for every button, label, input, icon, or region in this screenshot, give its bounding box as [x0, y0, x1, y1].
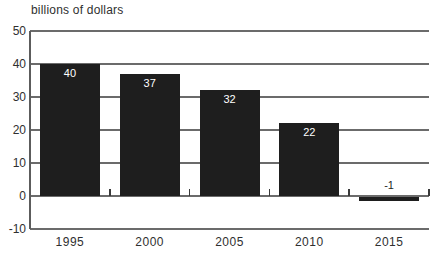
y-tick-label: 50 — [0, 24, 26, 38]
x-tick-label: 2010 — [269, 235, 349, 249]
category-tick — [428, 189, 430, 196]
gridline-50 — [30, 30, 429, 32]
category-tick — [109, 189, 111, 196]
x-tick-label: 2000 — [110, 235, 190, 249]
bar-value-label: 32 — [200, 93, 260, 106]
y-tick-label: 30 — [0, 90, 26, 104]
bar-value-label: -1 — [359, 179, 419, 192]
y-tick-label: 20 — [0, 123, 26, 137]
y-tick-label: 40 — [0, 57, 26, 71]
bar-value-label: 37 — [120, 77, 180, 90]
y-axis-line — [29, 31, 31, 229]
category-tick — [348, 189, 350, 196]
y-tick-label: 10 — [0, 156, 26, 170]
x-tick-label: 1995 — [30, 235, 110, 249]
y-tick-label: 0 — [0, 189, 26, 203]
bar-1995 — [40, 64, 100, 196]
gridline--10 — [30, 228, 429, 230]
bar-chart-figure: billions of dollars 50403020100-10401995… — [0, 0, 441, 266]
x-tick-label: 2005 — [190, 235, 270, 249]
bar-value-label: 40 — [40, 67, 100, 80]
bar-value-label: 22 — [279, 126, 339, 139]
category-tick — [189, 189, 191, 196]
bar-2000 — [120, 74, 180, 196]
x-tick-label: 2015 — [349, 235, 429, 249]
bar-2015 — [359, 197, 419, 201]
category-tick — [269, 189, 271, 196]
y-tick-label: -10 — [0, 222, 26, 236]
plot-area: 50403020100-10401995372000322005222010-1… — [0, 0, 441, 266]
